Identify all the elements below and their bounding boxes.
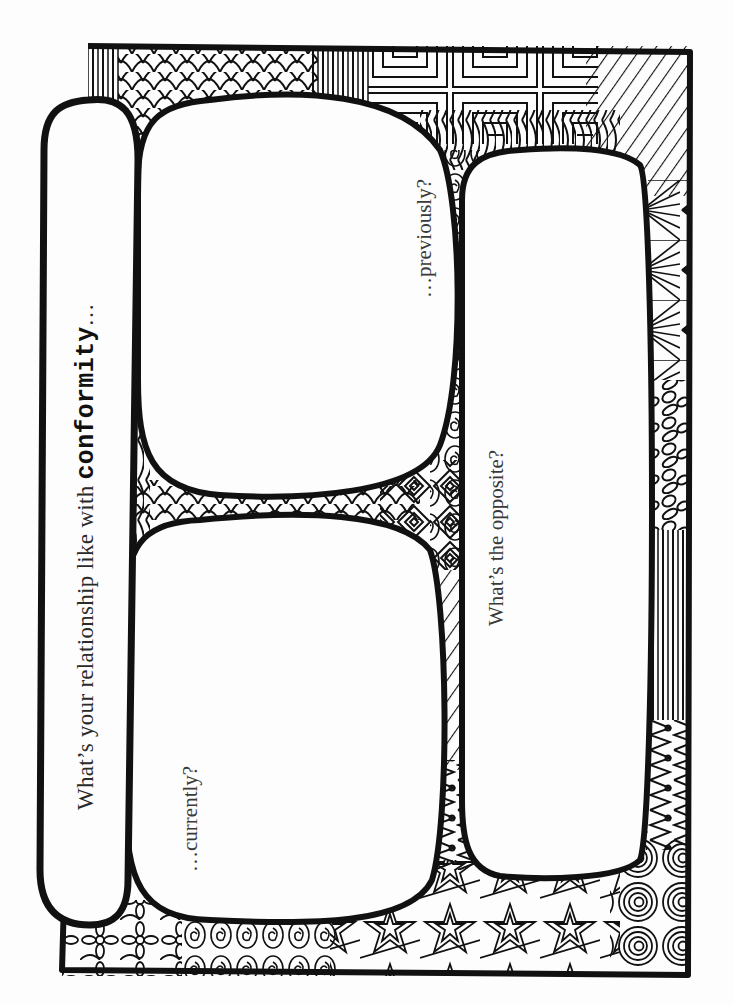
worksheet-title: What’s your relationship like with confo… — [72, 303, 101, 810]
title-keyword: conformity — [72, 326, 101, 479]
prompt-currently: …currently? — [178, 766, 203, 872]
worksheet-page: What’s your relationship like with confo… — [0, 0, 733, 1005]
answer-area-previously[interactable] — [150, 110, 440, 490]
answer-area-opposite[interactable] — [515, 160, 645, 870]
prompt-opposite: What’s the opposite? — [484, 450, 509, 626]
title-suffix: … — [73, 303, 98, 326]
answer-area-currently[interactable] — [210, 530, 430, 915]
title-prefix: What’s your relationship like with — [73, 479, 98, 810]
